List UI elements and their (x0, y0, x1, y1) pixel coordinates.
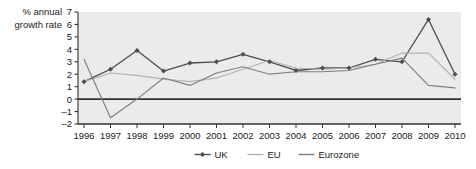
y-axis-tick-label: 2 (67, 69, 72, 80)
x-axis-tick-label: 2010 (444, 130, 465, 141)
y-axis-tick-label: –2 (61, 118, 72, 129)
y-axis-tick-label: 4 (67, 44, 72, 55)
x-axis-tick-label: 2003 (259, 130, 280, 141)
y-axis-tick-label: –1 (61, 106, 72, 117)
y-axis-tick-label: 5 (67, 31, 72, 42)
plot-background (78, 12, 461, 124)
chart-canvas: 76543210–1–2% annualgrowth rate199619971… (0, 0, 476, 169)
legend-label: UK (215, 149, 229, 160)
legend-item-eu: EU (248, 149, 281, 160)
y-axis-tick-label: 3 (67, 56, 72, 67)
y-axis-title-line2: growth rate (14, 19, 62, 30)
legend-item-uk: UK (195, 149, 229, 160)
x-axis-tick-label: 2007 (365, 130, 386, 141)
x-axis-tick-label: 2008 (391, 130, 412, 141)
y-axis-tick-label: 0 (67, 94, 72, 105)
legend-item-eurozone: Eurozone (299, 149, 360, 160)
y-axis-tick-label: 6 (67, 19, 72, 30)
x-axis-tick-label: 2002 (232, 130, 253, 141)
x-axis-tick-label: 1996 (73, 130, 94, 141)
y-axis-tick-label: 1 (67, 81, 72, 92)
x-axis-tick-label: 2006 (338, 130, 359, 141)
y-axis-tick-label: 7 (67, 6, 72, 17)
legend-label: EU (268, 149, 281, 160)
legend-label: Eurozone (319, 149, 360, 160)
x-axis-tick-label: 1998 (126, 130, 147, 141)
x-axis-tick-label: 2001 (206, 130, 227, 141)
growth-rate-line-chart: 76543210–1–2% annualgrowth rate199619971… (0, 0, 476, 169)
x-axis-tick-label: 2005 (312, 130, 333, 141)
x-axis-tick-label: 2000 (179, 130, 200, 141)
legend-marker (200, 152, 205, 157)
x-axis-tick-label: 1999 (153, 130, 174, 141)
y-axis-title-line1: % annual (22, 6, 62, 17)
x-axis-tick-label: 2009 (418, 130, 439, 141)
x-axis-tick-label: 1997 (100, 130, 121, 141)
x-axis-tick-label: 2004 (285, 130, 306, 141)
